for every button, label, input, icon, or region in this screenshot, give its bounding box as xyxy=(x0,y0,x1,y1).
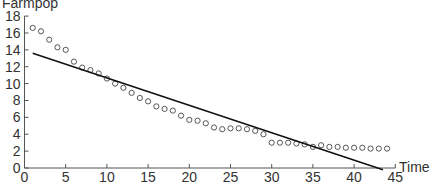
x-tick-label: 5 xyxy=(62,169,70,183)
data-point xyxy=(203,121,208,126)
data-point xyxy=(211,125,216,130)
data-point xyxy=(368,146,373,151)
x-tick-label: 15 xyxy=(140,169,156,183)
trend-line xyxy=(33,53,383,169)
data-point xyxy=(71,59,76,64)
data-point xyxy=(335,144,340,149)
data-point xyxy=(236,126,241,131)
data-point xyxy=(327,144,332,149)
x-tick-label: 25 xyxy=(223,169,239,183)
data-point xyxy=(244,127,249,132)
data-point xyxy=(146,99,151,104)
scatter-chart: Farmpop Time 051015202530354045024681012… xyxy=(0,0,434,183)
y-tick-label: 14 xyxy=(5,42,21,58)
data-point xyxy=(137,95,142,100)
y-tick-label: 12 xyxy=(5,59,21,75)
data-point xyxy=(352,145,357,150)
data-point xyxy=(38,29,43,34)
y-tick-label: 16 xyxy=(5,25,21,41)
data-point xyxy=(178,113,183,118)
data-point xyxy=(129,90,134,95)
data-points xyxy=(30,25,390,151)
data-point xyxy=(384,146,389,151)
data-point xyxy=(319,143,324,148)
x-tick-label: 30 xyxy=(264,169,280,183)
data-point xyxy=(253,128,258,133)
data-point xyxy=(228,126,233,131)
data-point xyxy=(376,146,381,151)
data-point xyxy=(47,37,52,42)
data-point xyxy=(220,127,225,132)
data-point xyxy=(187,117,192,122)
y-tick-label: 10 xyxy=(5,76,21,92)
y-tick-label: 2 xyxy=(13,143,21,159)
x-tick-label: 45 xyxy=(388,169,404,183)
y-tick-label: 8 xyxy=(13,92,21,108)
y-tick-label: 18 xyxy=(5,8,21,24)
data-point xyxy=(63,47,68,52)
data-point xyxy=(360,145,365,150)
data-point xyxy=(30,25,35,30)
data-point xyxy=(55,45,60,50)
x-tick-label: 10 xyxy=(99,169,115,183)
fit-line xyxy=(33,53,383,169)
y-tick-label: 4 xyxy=(13,126,21,142)
x-tick-label: 40 xyxy=(346,169,362,183)
data-point xyxy=(170,108,175,113)
x-axis-title: Time xyxy=(399,159,430,175)
x-tick-label: 20 xyxy=(182,169,198,183)
data-point xyxy=(121,85,126,90)
data-point xyxy=(162,106,167,111)
y-tick-label: 0 xyxy=(13,160,21,176)
data-point xyxy=(286,140,291,145)
data-point xyxy=(154,104,159,109)
data-point xyxy=(195,118,200,123)
data-point xyxy=(343,145,348,150)
x-tick-label: 35 xyxy=(305,169,321,183)
data-point xyxy=(261,132,266,137)
x-tick-label: 0 xyxy=(21,169,29,183)
data-point xyxy=(277,140,282,145)
y-tick-label: 6 xyxy=(13,109,21,125)
data-point xyxy=(269,140,274,145)
